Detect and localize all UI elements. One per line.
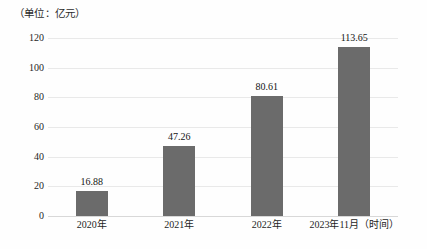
y-axis-tick-label: 40 xyxy=(4,152,44,162)
x-axis-tick-label: 2022年 xyxy=(252,220,282,230)
y-axis-tick-label: 60 xyxy=(4,122,44,132)
bar xyxy=(163,146,195,216)
x-axis-tick-label: 2020年 xyxy=(77,220,107,230)
x-axis-tick-label: 2021年 xyxy=(164,220,194,230)
bar-value-label: 47.26 xyxy=(168,132,191,142)
bar xyxy=(76,191,108,216)
gridline xyxy=(48,216,398,217)
bar-slot: 16.88 xyxy=(76,38,108,216)
bar xyxy=(338,47,370,216)
bar-value-label: 80.61 xyxy=(256,82,279,92)
plot-area: 16.8847.2680.61113.65 xyxy=(48,38,398,216)
y-axis-tick-label: 20 xyxy=(4,181,44,191)
bar-chart: （单位：亿元） 020406080100120 16.8847.2680.611… xyxy=(0,0,427,249)
chart-unit-caption: （单位：亿元） xyxy=(14,9,85,20)
y-axis-tick-label: 100 xyxy=(4,63,44,73)
bar xyxy=(251,96,283,216)
x-axis-tick-label: 2023年11月（时间） xyxy=(309,220,399,230)
bar-value-label: 113.65 xyxy=(341,33,368,43)
bar-slot: 80.61 xyxy=(251,38,283,216)
y-axis-tick-label: 0 xyxy=(4,211,44,221)
y-axis: 020406080100120 xyxy=(0,38,44,216)
y-axis-tick-label: 80 xyxy=(4,92,44,102)
x-axis: 2020年2021年2022年2023年11月（时间） xyxy=(48,220,398,242)
bar-value-label: 16.88 xyxy=(81,177,104,187)
y-axis-tick-label: 120 xyxy=(4,33,44,43)
bar-slot: 113.65 xyxy=(338,38,370,216)
bar-slot: 47.26 xyxy=(163,38,195,216)
